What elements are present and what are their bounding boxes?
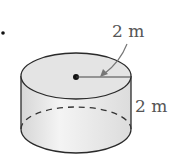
bullet-dot [1, 31, 5, 35]
radius-label: 2 m [112, 21, 144, 41]
height-label: 2 m [135, 96, 167, 116]
cylinder-diagram: 2 m 2 m [0, 0, 172, 165]
